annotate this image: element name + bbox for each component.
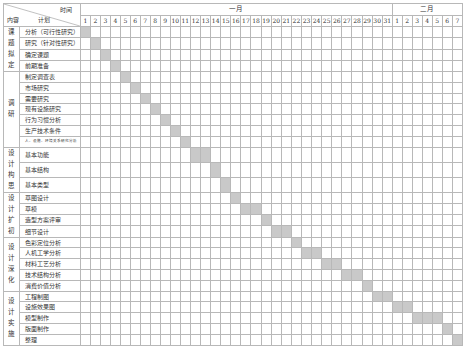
grid-cell	[221, 82, 231, 93]
grid-cell	[332, 82, 342, 93]
grid-cell	[412, 125, 422, 136]
grid-cell	[170, 147, 180, 162]
grid-cell	[160, 248, 170, 259]
grid-cell	[392, 136, 402, 147]
grid-cell	[442, 313, 452, 324]
grid-cell	[271, 334, 281, 345]
grid-cell	[140, 237, 150, 248]
grid-cell	[251, 60, 261, 71]
grid-cell	[362, 136, 372, 147]
grid-cell	[170, 27, 180, 38]
grid-cell	[291, 93, 301, 104]
grid-cell	[342, 162, 352, 177]
day-header: 3	[100, 16, 110, 27]
grid-cell	[372, 72, 382, 83]
grid-cell	[301, 115, 311, 126]
grid-cell	[251, 162, 261, 177]
task-rows: 课题拟定分析（可行性研究）研究（针对性研究）确定课题前期准备调研制定调查表市场研…	[4, 27, 463, 346]
grid-cell	[332, 177, 342, 192]
grid-cell	[241, 177, 251, 192]
grid-cell	[180, 203, 190, 214]
grid-cell	[372, 93, 382, 104]
grid-cell	[130, 259, 140, 270]
grid-cell	[150, 280, 160, 291]
grid-cell	[382, 49, 392, 60]
grid-cell	[402, 259, 412, 270]
grid-cell	[412, 226, 422, 237]
grid-cell	[271, 177, 281, 192]
grid-cell	[130, 291, 140, 302]
grid-cell	[130, 269, 140, 280]
grid-cell	[412, 248, 422, 259]
grid-cell	[100, 192, 110, 203]
grid-cell	[312, 203, 322, 214]
grid-cell	[160, 203, 170, 214]
grid-cell	[432, 215, 442, 226]
grid-cell	[452, 49, 462, 60]
grid-cell	[271, 104, 281, 115]
grid-cell	[80, 313, 90, 324]
gantt-bar-cell	[312, 248, 322, 259]
grid-cell	[352, 248, 362, 259]
grid-cell	[100, 323, 110, 334]
day-header: 4	[422, 16, 432, 27]
task-label: 人、设施、环境关系研究分析	[19, 136, 80, 147]
grid-cell	[170, 302, 180, 313]
grid-cell	[160, 237, 170, 248]
grid-cell	[231, 147, 241, 162]
grid-cell	[221, 269, 231, 280]
grid-cell	[452, 313, 462, 324]
grid-cell	[251, 248, 261, 259]
grid-cell	[271, 280, 281, 291]
table-row: 前期准备	[4, 60, 463, 71]
grid-cell	[291, 269, 301, 280]
grid-cell	[180, 215, 190, 226]
grid-cell	[231, 215, 241, 226]
grid-cell	[301, 269, 311, 280]
grid-cell	[211, 27, 221, 38]
task-label: 生产技术条件	[19, 125, 80, 136]
grid-cell	[130, 93, 140, 104]
grid-cell	[312, 291, 322, 302]
grid-cell	[322, 226, 332, 237]
grid-cell	[412, 237, 422, 248]
grid-cell	[352, 60, 362, 71]
grid-cell	[362, 203, 372, 214]
grid-cell	[150, 93, 160, 104]
grid-cell	[180, 93, 190, 104]
grid-cell	[241, 125, 251, 136]
grid-cell	[422, 280, 432, 291]
grid-cell	[130, 226, 140, 237]
grid-cell	[90, 72, 100, 83]
gantt-bar-cell	[221, 177, 231, 192]
grid-cell	[372, 215, 382, 226]
schedule-table: 时间 内容 计划 一月二月 12345678910111213141516171…	[3, 3, 463, 346]
grid-cell	[100, 147, 110, 162]
grid-cell	[301, 291, 311, 302]
grid-cell	[392, 125, 402, 136]
grid-cell	[241, 323, 251, 334]
grid-cell	[130, 248, 140, 259]
grid-cell	[80, 72, 90, 83]
grid-cell	[412, 147, 422, 162]
grid-cell	[170, 192, 180, 203]
grid-cell	[80, 125, 90, 136]
grid-cell	[100, 215, 110, 226]
day-header: 31	[382, 16, 392, 27]
gantt-bar-cell	[291, 237, 301, 248]
grid-cell	[120, 60, 130, 71]
grid-cell	[382, 72, 392, 83]
grid-cell	[422, 237, 432, 248]
grid-cell	[281, 203, 291, 214]
grid-cell	[452, 104, 462, 115]
grid-cell	[261, 192, 271, 203]
grid-cell	[442, 280, 452, 291]
grid-cell	[412, 38, 422, 49]
grid-cell	[190, 226, 200, 237]
grid-cell	[261, 334, 271, 345]
grid-cell	[301, 49, 311, 60]
grid-cell	[372, 82, 382, 93]
grid-cell	[402, 269, 412, 280]
grid-cell	[120, 280, 130, 291]
grid-cell	[221, 49, 231, 60]
